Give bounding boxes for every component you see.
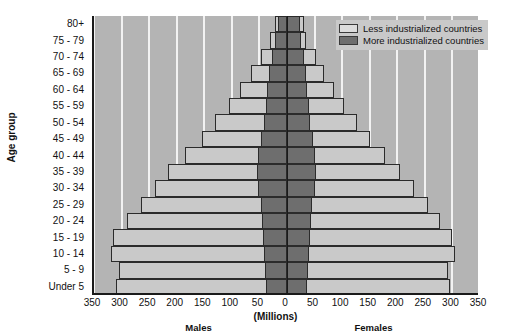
bar-more-males	[258, 180, 287, 196]
bar-row	[94, 65, 478, 81]
bar-more-females	[287, 229, 310, 245]
legend-label-more: More industrialized countries	[363, 36, 484, 46]
bar-more-females	[287, 164, 316, 180]
x-axis-tick-labels: 3503002502001501005005010015020025030035…	[0, 297, 505, 311]
bar-less-females	[287, 262, 448, 278]
bar-less-males	[111, 246, 287, 262]
y-axis-tick-labels: Under 55 - 910 - 1415 - 1920 - 2425 - 29…	[0, 16, 90, 295]
bar-more-females	[287, 147, 315, 163]
bar-row	[94, 229, 478, 245]
bar-more-females	[287, 131, 313, 147]
bar-more-females	[287, 98, 309, 114]
bar-row	[94, 213, 478, 229]
bar-more-males	[261, 131, 287, 147]
bar-less-females	[287, 279, 450, 295]
bar-more-females	[287, 180, 315, 196]
y-tick-label: 50 - 54	[53, 118, 84, 128]
bar-more-males	[265, 262, 287, 278]
gridline	[93, 16, 95, 293]
y-tick-label: 60 - 64	[53, 85, 84, 95]
legend-label-less: Less industrialized countries	[363, 24, 482, 34]
bar-row	[94, 114, 478, 130]
bar-row	[94, 147, 478, 163]
axis-zero-line	[287, 16, 288, 293]
bar-row	[94, 164, 478, 180]
bar-more-males	[267, 82, 287, 98]
y-tick-label: 20 - 24	[53, 216, 84, 226]
plot-area	[92, 16, 478, 295]
legend-swatch-more-icon	[339, 36, 358, 45]
bar-more-males	[264, 114, 287, 130]
bar-more-males	[272, 49, 287, 65]
legend: Less industrialized countries More indus…	[336, 20, 488, 50]
bar-more-males	[269, 65, 287, 81]
bar-row	[94, 131, 478, 147]
bar-row	[94, 197, 478, 213]
legend-item-less: Less industrialized countries	[339, 23, 484, 34]
bar-row	[94, 246, 478, 262]
bar-more-males	[266, 279, 287, 295]
bar-row	[94, 49, 478, 65]
bar-more-females	[287, 49, 304, 65]
bar-more-females	[287, 213, 311, 229]
bar-less-females	[287, 246, 455, 262]
y-tick-label: 70 - 74	[53, 52, 84, 62]
y-tick-label: 40 - 44	[53, 151, 84, 161]
bar-more-males	[278, 16, 287, 32]
bar-more-females	[287, 32, 301, 48]
y-tick-label: 55 - 59	[53, 101, 84, 111]
bar-more-females	[287, 279, 307, 295]
bar-more-females	[287, 82, 307, 98]
bar-less-males	[116, 279, 287, 295]
bar-more-males	[264, 246, 287, 262]
males-label: Males	[159, 322, 239, 333]
bar-more-males	[261, 197, 287, 213]
bar-row	[94, 279, 478, 295]
bar-less-females	[287, 229, 452, 245]
bar-more-males	[275, 32, 287, 48]
bar-more-males	[257, 164, 287, 180]
population-pyramid-chart: Age group Under 55 - 910 - 1415 - 1920 -…	[0, 0, 505, 334]
x-axis-title: (Millions)	[33, 311, 505, 322]
y-tick-label: 10 - 14	[53, 249, 84, 259]
y-tick-label: Under 5	[48, 282, 84, 292]
y-tick-label: 15 - 19	[53, 233, 84, 243]
y-tick-label: 75 - 79	[53, 36, 84, 46]
y-tick-label: 45 - 49	[53, 134, 84, 144]
y-tick-label: 5 - 9	[64, 265, 84, 275]
bar-more-males	[258, 147, 287, 163]
females-label: Females	[334, 322, 414, 333]
legend-swatch-less-icon	[339, 24, 358, 33]
bar-more-females	[287, 246, 309, 262]
bar-more-males	[263, 229, 287, 245]
bar-row	[94, 262, 478, 278]
y-tick-label: 35 - 39	[53, 167, 84, 177]
bar-more-females	[287, 65, 306, 81]
bar-more-females	[287, 114, 310, 130]
bar-more-females	[287, 197, 312, 213]
y-tick-label: 30 - 34	[53, 183, 84, 193]
bar-more-females	[287, 262, 308, 278]
bar-row	[94, 180, 478, 196]
x-tick-label: 350	[458, 297, 498, 309]
bar-more-males	[262, 213, 287, 229]
legend-item-more: More industrialized countries	[339, 35, 484, 46]
bar-rows	[94, 16, 478, 293]
bar-less-males	[113, 229, 287, 245]
bar-row	[94, 98, 478, 114]
bar-more-males	[266, 98, 287, 114]
bar-more-females	[287, 16, 300, 32]
bar-less-males	[119, 262, 287, 278]
x-axis-title-text: (Millions)	[254, 311, 298, 322]
y-tick-label: 65 - 69	[53, 68, 84, 78]
y-tick-label: 25 - 29	[53, 200, 84, 210]
y-tick-label: 80+	[67, 19, 84, 29]
bar-row	[94, 82, 478, 98]
